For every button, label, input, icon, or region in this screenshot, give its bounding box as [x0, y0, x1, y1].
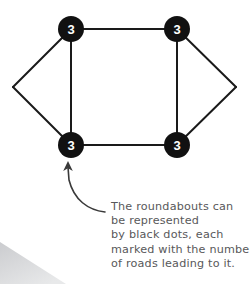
graph-edges — [13, 29, 236, 145]
graph-node-bottom-right: 3 — [164, 132, 190, 158]
arrow-curve-path — [68, 167, 105, 212]
graph-node-bottom-left: 3 — [58, 132, 84, 158]
annotation-line-5: of roads leading to it. — [111, 257, 250, 271]
annotation-line-4: marked with the number — [111, 243, 250, 257]
annotation-arrow — [63, 161, 105, 212]
node-circle — [58, 132, 84, 158]
annotation-line-2: be represented — [111, 214, 250, 228]
annotation-line-3: by black dots, each — [111, 228, 250, 242]
graph-node-top-right: 3 — [164, 16, 190, 42]
diagram-page: 3333 The roundabouts can be represented … — [0, 0, 250, 284]
node-circle — [164, 16, 190, 42]
graph-node-top-left: 3 — [58, 16, 84, 42]
node-circle — [58, 16, 84, 42]
node-circle — [164, 132, 190, 158]
annotation-caption: The roundabouts can be represented by bl… — [111, 200, 250, 271]
annotation-line-1: The roundabouts can — [111, 200, 250, 214]
graph-nodes: 3333 — [58, 16, 190, 158]
